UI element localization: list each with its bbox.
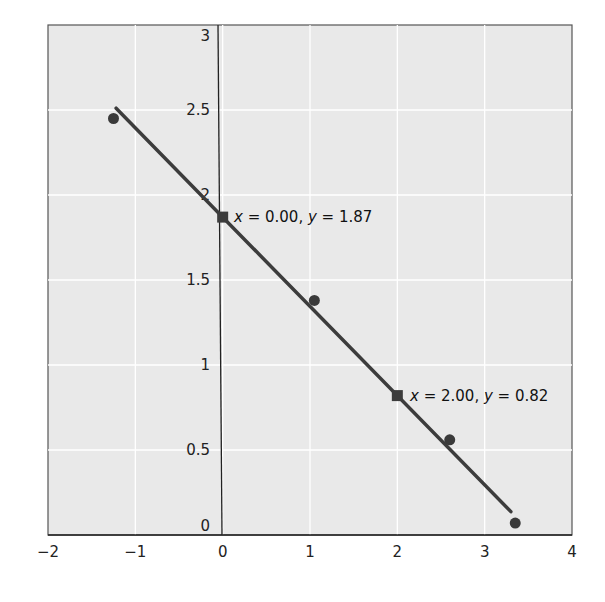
data-point	[309, 295, 320, 306]
annotation-label-2: x = 2.00, y = 0.82	[409, 387, 548, 405]
x-tick-label: 3	[480, 543, 490, 561]
y-tick-label: 2.5	[186, 101, 210, 119]
y-tick-label: 1.5	[186, 271, 210, 289]
y-tick-label: 1	[200, 356, 210, 374]
x-tick-label: −1	[124, 543, 146, 561]
y-tick-label: 0	[200, 517, 210, 535]
y-tick-label: 3	[200, 27, 210, 45]
x-tick-label: −2	[37, 543, 59, 561]
data-point	[510, 518, 521, 529]
scatter-plot-with-regression-line: −2−101234 00.511.522.53 x = 0.00, y = 1.…	[0, 0, 605, 602]
x-tick-label: 4	[567, 543, 577, 561]
annotation-square-marker	[217, 212, 228, 223]
x-tick-label: 1	[305, 543, 315, 561]
x-tick-label: 0	[218, 543, 228, 561]
data-point	[444, 434, 455, 445]
y-tick-labels: 00.511.522.53	[186, 27, 210, 535]
y-tick-label: 0.5	[186, 441, 210, 459]
annotation-label-1: x = 0.00, y = 1.87	[233, 208, 372, 226]
x-tick-labels: −2−101234	[37, 543, 577, 561]
data-point	[108, 113, 119, 124]
x-tick-label: 2	[393, 543, 403, 561]
annotation-square-marker	[392, 390, 403, 401]
